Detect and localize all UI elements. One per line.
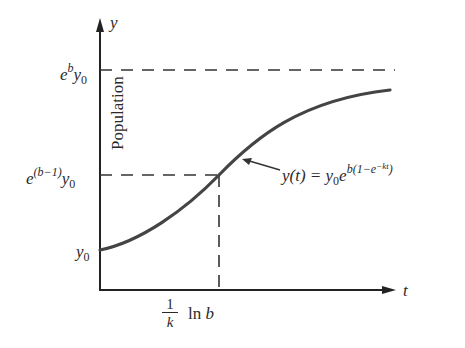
x-axis-arrow-icon (382, 286, 396, 294)
x-tick-fraction: 1 k (162, 296, 178, 331)
y-axis-arrow-icon (96, 18, 104, 32)
population-axis-title: Population (108, 76, 128, 150)
curve-pointer-arrow-icon (242, 158, 252, 165)
curve-pointer-line (246, 160, 280, 170)
curve-equation-label: y(t) = y0eb(1−e−kt) (282, 167, 393, 184)
y-tick-initial: y0 (76, 243, 90, 260)
y-axis-label: y (110, 14, 118, 31)
y-tick-inflection: e(b−1)y0 (26, 170, 75, 187)
y-tick-asymptote: eby0 (60, 66, 87, 83)
x-axis-label: t (403, 282, 408, 299)
x-tick-ln-b: ln b (188, 305, 214, 322)
